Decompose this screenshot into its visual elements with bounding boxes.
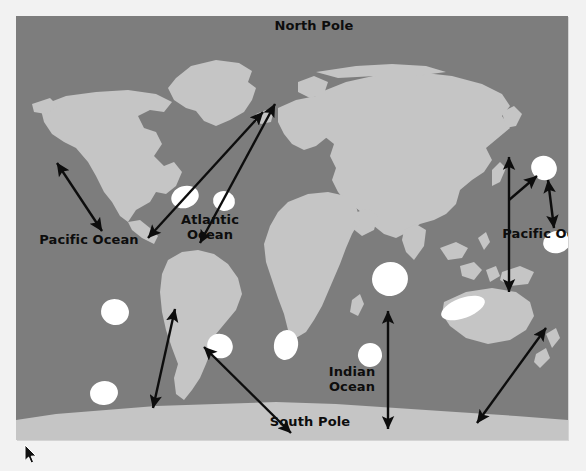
mouse-pointer-icon (24, 444, 38, 465)
world-map-figure[interactable]: North Pole Pacific Ocean Atlantic Ocean … (16, 16, 568, 440)
world-map-graphic (16, 16, 568, 440)
